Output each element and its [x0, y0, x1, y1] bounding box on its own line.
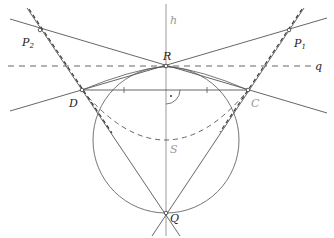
line-p2-d-dashed [29, 9, 112, 133]
line-p2-d-q [27, 8, 180, 236]
label-r: R [162, 50, 171, 63]
label-q: q [315, 60, 322, 73]
line-p1-c-dashed [220, 9, 302, 132]
right-angle-arc [166, 90, 180, 104]
right-angle-dot [170, 95, 172, 97]
line-p1-c-q [152, 8, 304, 236]
geometric-diagram: h q R Q S D C P1 P2 [0, 0, 334, 238]
point-r [164, 64, 168, 68]
tangent-arc-right [166, 66, 248, 90]
label-s: S [170, 143, 178, 156]
label-p2: P2 [21, 36, 34, 50]
point-d [80, 88, 84, 92]
label-p1: P1 [293, 37, 306, 51]
line-p1-r-d [10, 18, 327, 111]
point-p2 [38, 28, 42, 32]
label-d: D [68, 97, 78, 110]
label-h: h [170, 14, 177, 27]
point-q [164, 211, 168, 215]
label-q-point: Q [170, 212, 179, 225]
label-c: C [251, 97, 260, 110]
point-c [246, 88, 250, 92]
point-p1 [287, 28, 291, 32]
